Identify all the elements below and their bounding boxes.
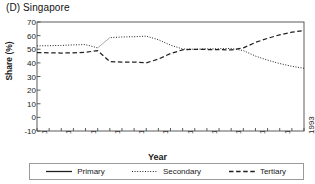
legend-label: Tertiary — [260, 167, 286, 176]
dotted-line-icon — [132, 168, 158, 175]
plot-area — [0, 0, 315, 184]
chart-legend: PrimarySecondaryTertiary — [29, 163, 304, 180]
legend-label: Primary — [77, 167, 105, 176]
axes-frame — [37, 22, 304, 131]
chart-figure: (D) Singapore Share (%) Year 70605040302… — [0, 0, 315, 184]
dashed-line-icon — [229, 168, 255, 175]
legend-label: Secondary — [163, 167, 201, 176]
solid-line-icon — [46, 168, 72, 175]
legend-item-primary[interactable]: Primary — [30, 167, 121, 176]
legend-item-tertiary[interactable]: Tertiary — [212, 167, 303, 176]
legend-item-secondary[interactable]: Secondary — [121, 167, 212, 176]
